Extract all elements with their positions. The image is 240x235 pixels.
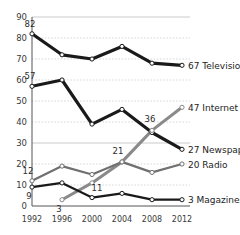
data-point-radio bbox=[60, 164, 64, 168]
data-point-television bbox=[60, 53, 64, 57]
data-point-newspapers bbox=[120, 107, 124, 111]
x-axis-ticks: 199219962000200420082012 bbox=[22, 215, 192, 224]
data-point-magazines bbox=[120, 191, 124, 195]
data-point-radio bbox=[30, 179, 34, 183]
point-label-82: 82 bbox=[25, 19, 36, 29]
data-point-television bbox=[90, 57, 94, 61]
series-line-newspapers bbox=[32, 80, 182, 149]
end-label-internet: 47 Internet bbox=[188, 103, 239, 113]
x-tick-label: 2008 bbox=[142, 215, 162, 224]
data-point-internet bbox=[150, 128, 154, 132]
x-tick-label: 2004 bbox=[112, 215, 132, 224]
data-point-television bbox=[120, 44, 124, 48]
data-point-radio bbox=[90, 172, 94, 176]
data-point-radio bbox=[180, 162, 184, 166]
axis-lines bbox=[32, 17, 190, 206]
y-tick-label: 0 bbox=[22, 201, 27, 211]
end-label-newspapers: 27 Newspapers bbox=[188, 145, 240, 155]
y-tick-label: 50 bbox=[16, 96, 27, 106]
y-tick-label: 40 bbox=[16, 117, 27, 127]
x-tick-label: 2000 bbox=[82, 215, 102, 224]
series-end-labels: 67 Television27 Newspapers47 Internet20 … bbox=[188, 61, 240, 205]
y-axis-ticks: 0102030405060708090 bbox=[16, 12, 27, 211]
y-tick-label: 80 bbox=[16, 33, 27, 43]
x-tick-label: 2012 bbox=[172, 215, 192, 224]
data-point-newspapers bbox=[60, 78, 64, 82]
data-point-magazines bbox=[90, 196, 94, 200]
end-label-magazines: 3 Magazines bbox=[188, 195, 240, 205]
point-label-21: 21 bbox=[113, 146, 124, 156]
data-point-television bbox=[150, 61, 154, 65]
point-label-11: 11 bbox=[92, 183, 103, 193]
data-point-internet bbox=[60, 198, 64, 202]
grid-lines bbox=[32, 17, 190, 185]
data-point-television bbox=[30, 32, 34, 36]
point-label-57: 57 bbox=[25, 71, 36, 81]
data-point-magazines bbox=[150, 198, 154, 202]
data-point-radio bbox=[120, 160, 124, 164]
line-chart: 0102030405060708090 19921996200020042008… bbox=[0, 0, 240, 235]
data-point-internet bbox=[180, 105, 184, 109]
data-point-newspapers bbox=[30, 84, 34, 88]
series-line-television bbox=[32, 34, 182, 66]
data-point-newspapers bbox=[180, 147, 184, 151]
end-label-television: 67 Television bbox=[188, 61, 240, 71]
y-tick-label: 70 bbox=[16, 54, 27, 64]
data-point-radio bbox=[150, 170, 154, 174]
end-label-radio: 20 Radio bbox=[188, 160, 228, 170]
chart-canvas: 0102030405060708090 19921996200020042008… bbox=[0, 0, 240, 235]
y-tick-label: 30 bbox=[16, 138, 27, 148]
data-point-television bbox=[180, 63, 184, 67]
x-tick-label: 1992 bbox=[22, 215, 42, 224]
point-label-9: 9 bbox=[26, 191, 31, 201]
point-label-3: 3 bbox=[56, 204, 61, 214]
series-line-magazines bbox=[32, 183, 182, 200]
point-label-36: 36 bbox=[145, 114, 156, 124]
x-tick-label: 1996 bbox=[52, 215, 72, 224]
data-point-newspapers bbox=[90, 122, 94, 126]
point-label-12: 12 bbox=[23, 166, 34, 176]
data-point-magazines bbox=[180, 198, 184, 202]
data-point-magazines bbox=[30, 185, 34, 189]
data-point-magazines bbox=[60, 181, 64, 185]
y-tick-label: 10 bbox=[16, 180, 27, 190]
